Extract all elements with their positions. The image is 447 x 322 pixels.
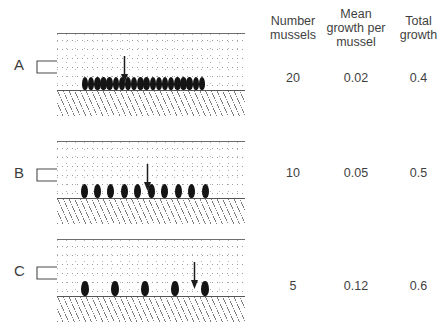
- sampling-arrow-a: [120, 56, 129, 84]
- results-table: Number mussels Mean growth per mussel To…: [262, 0, 447, 318]
- header-line-3: mussel: [320, 35, 392, 49]
- header-line-1: Mean: [320, 7, 392, 21]
- mussel: [106, 77, 112, 90]
- panel-b: B: [0, 138, 255, 224]
- header-line-2: growth per: [320, 21, 392, 35]
- water-surface-line: [57, 141, 245, 142]
- mussel: [94, 184, 101, 198]
- mussel: [161, 184, 168, 198]
- table-cell-total-a: 0.4: [390, 71, 447, 85]
- header-line-2: mussels: [262, 28, 324, 42]
- panel-a: A: [0, 30, 255, 120]
- column-header-total-growth: Total growth: [390, 14, 447, 42]
- mussel: [81, 184, 88, 198]
- table-cell-number-b: 10: [262, 166, 324, 180]
- water-surface-line: [57, 33, 245, 34]
- table-cell-number-a: 20: [262, 71, 324, 85]
- column-header-mean-growth: Mean growth per mussel: [320, 7, 392, 49]
- column-header-number-mussels: Number mussels: [262, 14, 324, 42]
- scene-b: [57, 138, 245, 224]
- water-surface-line: [57, 239, 245, 240]
- mussel: [171, 281, 178, 296]
- mussel: [81, 281, 88, 296]
- header-line-2: growth: [390, 28, 447, 42]
- header-line-1: Total: [390, 14, 447, 28]
- mussel: [199, 77, 205, 90]
- mussel: [202, 184, 209, 198]
- substrate-hatching: [57, 91, 245, 116]
- table-cell-mean-a: 0.02: [320, 71, 392, 85]
- mussel: [201, 281, 208, 296]
- panel-label-b: B: [14, 164, 25, 181]
- mussel: [188, 184, 195, 198]
- panel-label-a: A: [14, 56, 25, 73]
- table-cell-number-c: 5: [262, 279, 324, 293]
- substrate-hatching: [57, 199, 245, 224]
- panel-label-c: C: [14, 262, 25, 279]
- mussel: [150, 77, 156, 90]
- panel-c: C: [0, 236, 255, 322]
- substrate-hatching: [57, 297, 245, 322]
- sampling-arrow-c: [190, 262, 199, 290]
- header-line-1: Number: [262, 14, 324, 28]
- mussel: [143, 77, 149, 90]
- mussel: [111, 281, 118, 296]
- mussel: [175, 184, 182, 198]
- scene-c: [57, 236, 245, 322]
- mussel: [141, 281, 148, 296]
- table-cell-total-c: 0.6: [390, 279, 447, 293]
- table-cell-total-b: 0.5: [390, 166, 447, 180]
- table-cell-mean-c: 0.12: [320, 279, 392, 293]
- mussel: [121, 184, 128, 198]
- scene-a: [57, 30, 245, 120]
- mussel: [186, 77, 192, 90]
- table-cell-mean-b: 0.05: [320, 166, 392, 180]
- mussel: [113, 77, 119, 90]
- sampling-arrow-b: [143, 164, 152, 192]
